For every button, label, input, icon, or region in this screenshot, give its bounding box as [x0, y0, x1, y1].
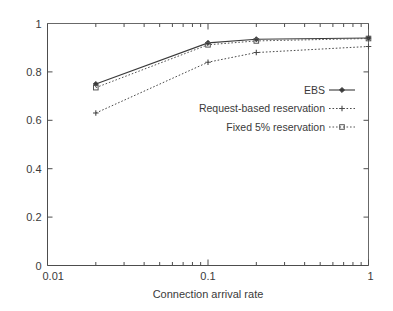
legend-sample-marker-1: [339, 87, 344, 92]
series-line: [96, 39, 369, 88]
marker-plus: [254, 50, 260, 56]
marker-plus: [366, 44, 372, 50]
y-tick-label: 1: [35, 18, 41, 30]
y-tick-label: 0: [35, 260, 41, 272]
series-3: [94, 36, 371, 90]
x-axis-title: Connection arrival rate: [153, 288, 264, 300]
series-line: [96, 38, 369, 84]
legend-label-2: Request-based reservation: [199, 102, 325, 114]
marker-plus: [93, 110, 99, 116]
chart-figure: 00.20.40.60.810.010.11Connection arrival…: [0, 0, 393, 311]
legend-label-1: EBS: [304, 84, 325, 96]
y-tick-label: 0.4: [26, 163, 41, 175]
legend-label-3: Fixed 5% reservation: [226, 121, 325, 133]
marker-plus: [205, 59, 211, 65]
legend-sample-marker-2: [339, 106, 345, 112]
x-tick-label: 1: [367, 270, 373, 282]
marker-plus: [339, 106, 345, 112]
y-tick-label: 0.6: [26, 114, 41, 126]
x-tick-label: 0.1: [200, 270, 215, 282]
x-tick-label: 0.01: [43, 270, 64, 282]
y-tick-label: 0.2: [26, 211, 41, 223]
y-tick-label: 0.8: [26, 66, 41, 78]
marker-filled-diamond: [339, 87, 344, 92]
line-chart: 00.20.40.60.810.010.11Connection arrival…: [0, 0, 393, 311]
